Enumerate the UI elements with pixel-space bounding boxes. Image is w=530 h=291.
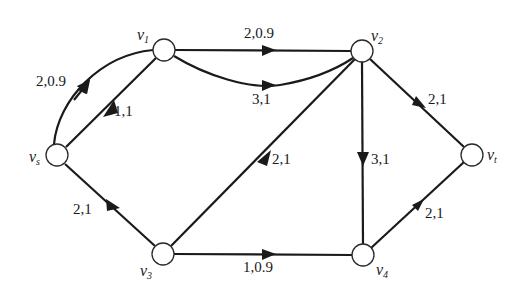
edge-v1-v2-straight (175, 45, 351, 56)
edge-label-v2-v4: 3,1 (371, 151, 390, 167)
edge-label-vs-v1-curved: 2,0.9 (36, 73, 66, 89)
edge-label-v1-v2: 2,0.9 (244, 25, 274, 41)
edge-vs-v1-curved (54, 50, 153, 144)
node-label-v2: v2 (371, 27, 383, 46)
node-v4 (352, 244, 374, 266)
edge-label-vs-v1: 1,1 (114, 103, 133, 119)
node-v2 (351, 40, 373, 62)
edge-v2-v4 (357, 62, 369, 244)
edge-v4-vt (371, 162, 464, 248)
network-diagram: 2,0.9 1,1 2,1 2,0.9 3,1 2,1 3,1 2,1 1,0.… (0, 0, 530, 291)
node-label-v3: v3 (140, 262, 152, 281)
node-label-v4: v4 (376, 261, 388, 280)
edge-v1-v2-curved (174, 56, 353, 91)
node-v1 (153, 39, 175, 61)
edge-label-v2-vt: 2,1 (428, 91, 447, 107)
node-label-v1: v1 (137, 26, 149, 45)
node-v3 (152, 243, 174, 265)
node-label-vs: vs (29, 148, 40, 167)
edge-label-v2-v3: 2,1 (272, 151, 291, 167)
edge-v2-vt (370, 59, 464, 147)
node-label-vt: vt (487, 146, 497, 165)
node-vs (46, 144, 68, 166)
edge-label-vs-v3: 2,1 (73, 201, 92, 217)
edge-label-v1-v2-curved: 3,1 (252, 91, 271, 107)
node-vt (461, 144, 483, 166)
edge-label-v3-v4: 1,0.9 (243, 259, 273, 275)
edge-vs-v1-straight (66, 58, 156, 147)
edge-label-v4-vt: 2,1 (425, 205, 444, 221)
